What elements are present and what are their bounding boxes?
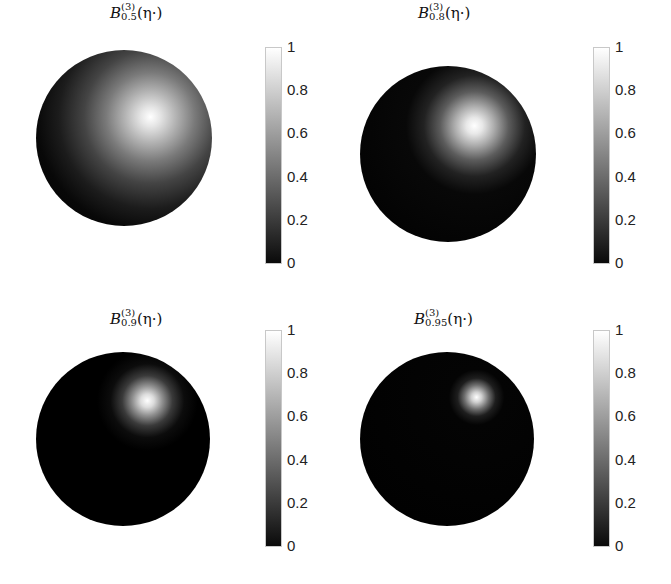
colorbar-tick-label: 0 [287,538,295,553]
sphere-plot [36,352,210,526]
title-sub: 0.95 [425,318,447,328]
colorbar-tick-label: 0.6 [615,408,636,423]
colorbar-tick-label: 1 [615,39,623,54]
colorbar-tick-label: 0.6 [287,408,308,423]
title-arg: (η·) [137,310,162,328]
colorbar-tick-label: 0.4 [615,452,636,467]
colorbar-tick-label: 0.6 [615,125,636,140]
colorbar-tick-label: 1 [287,39,295,54]
title-base: B [110,310,121,328]
colorbar-tick-label: 0.2 [615,495,636,510]
title-arg: (η·) [447,310,472,328]
panel-title: B(3)0.95(η·) [414,310,473,330]
panel-title: B(3)0.9(η·) [110,310,162,330]
colorbar-tick-label: 0.8 [615,365,636,380]
title-sub: 0.5 [121,12,137,22]
colorbar-tick-label: 0.8 [615,82,636,97]
title-base: B [418,4,429,22]
colorbar-tick-label: 1 [615,322,623,337]
colorbar-tick-label: 0.2 [287,495,308,510]
colorbar-tick-label: 0.4 [287,169,308,184]
title-base: B [414,310,425,328]
panel-title: B(3)0.5(η·) [110,4,162,24]
colorbar-tick-label: 0.2 [287,212,308,227]
panel-title: B(3)0.8(η·) [418,4,470,24]
title-sub: 0.9 [121,318,137,328]
sphere-plot [36,50,212,226]
title-arg: (η·) [137,4,162,22]
sphere-plot [360,352,534,526]
colorbar-tick-label: 0 [615,538,623,553]
colorbar-tick-label: 0 [615,255,623,270]
title-scripts: (3)0.9 [121,308,137,328]
title-scripts: (3)0.8 [429,2,445,22]
colorbar-tick-label: 0.6 [287,125,308,140]
colorbar-tick-label: 0.4 [287,452,308,467]
title-scripts: (3)0.95 [425,308,447,328]
title-base: B [110,4,121,22]
colorbar [265,47,282,264]
colorbar-tick-label: 0 [287,255,295,270]
title-sub: 0.8 [429,12,445,22]
colorbar [593,47,610,264]
title-arg: (η·) [445,4,470,22]
title-scripts: (3)0.5 [121,2,137,22]
colorbar-tick-label: 0.8 [287,82,308,97]
colorbar [593,330,610,547]
sphere-plot [360,66,536,242]
colorbar-tick-label: 0.4 [615,169,636,184]
colorbar-tick-label: 0.8 [287,365,308,380]
colorbar-tick-label: 0.2 [615,212,636,227]
colorbar-tick-label: 1 [287,322,295,337]
colorbar [265,330,282,547]
